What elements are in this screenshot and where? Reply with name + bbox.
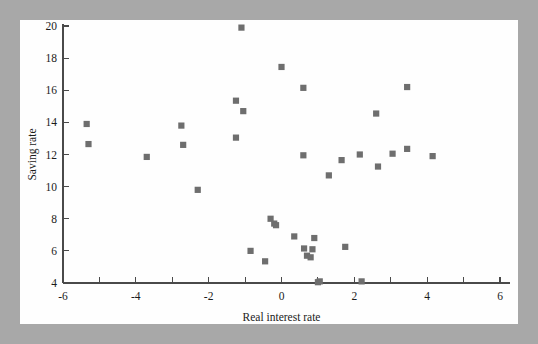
data-point (311, 235, 317, 241)
data-point (373, 110, 379, 116)
y-tick-label: 10 (46, 181, 58, 193)
data-point (247, 248, 253, 254)
data-point (262, 258, 268, 264)
data-point (300, 85, 306, 91)
scatter-chart-svg: 468101214161820-6-4-20246Real interest r… (20, 20, 518, 324)
y-tick-label: 16 (46, 84, 58, 96)
data-point (233, 98, 239, 104)
data-point (317, 278, 323, 284)
data-point (359, 278, 365, 284)
figure-root: 468101214161820-6-4-20246Real interest r… (0, 0, 538, 344)
data-point (178, 122, 184, 128)
x-tick-label: 0 (279, 290, 285, 302)
data-point (308, 254, 314, 260)
y-tick-label: 18 (46, 52, 58, 64)
data-point (309, 246, 315, 252)
y-tick-label: 12 (46, 149, 58, 161)
data-point (84, 121, 90, 127)
y-axis-title: Saving rate (26, 128, 39, 180)
data-point (144, 154, 150, 160)
data-point (180, 142, 186, 148)
data-point (240, 108, 246, 114)
data-point (404, 84, 410, 90)
data-point (326, 172, 332, 178)
x-tick-label: 4 (424, 290, 430, 302)
data-point (291, 233, 297, 239)
data-point (430, 153, 436, 159)
y-tick-label: 6 (51, 245, 57, 257)
x-tick-label: 2 (351, 290, 357, 302)
y-tick-label: 20 (46, 20, 58, 32)
data-point (195, 187, 201, 193)
data-point (85, 141, 91, 147)
x-tick-label: -4 (131, 290, 141, 302)
data-point-group (84, 25, 436, 286)
x-tick-label: -6 (58, 290, 68, 302)
y-tick-label: 8 (51, 213, 57, 225)
data-point (233, 135, 239, 141)
data-point (301, 245, 307, 251)
data-point (389, 151, 395, 157)
data-point (404, 146, 410, 152)
data-point (357, 151, 363, 157)
data-point (273, 222, 279, 228)
data-point (338, 157, 344, 163)
data-point (375, 163, 381, 169)
data-point (278, 64, 284, 70)
data-point (238, 25, 244, 31)
data-point (342, 244, 348, 250)
y-tick-label: 4 (51, 277, 57, 289)
data-point (300, 152, 306, 158)
x-axis-title: Real interest rate (243, 311, 321, 323)
scatter-plot: 468101214161820-6-4-20246Real interest r… (20, 20, 518, 324)
x-tick-label: 6 (497, 290, 503, 302)
chart-card: 468101214161820-6-4-20246Real interest r… (20, 20, 518, 324)
x-tick-label: -2 (204, 290, 214, 302)
y-tick-label: 14 (46, 116, 58, 128)
